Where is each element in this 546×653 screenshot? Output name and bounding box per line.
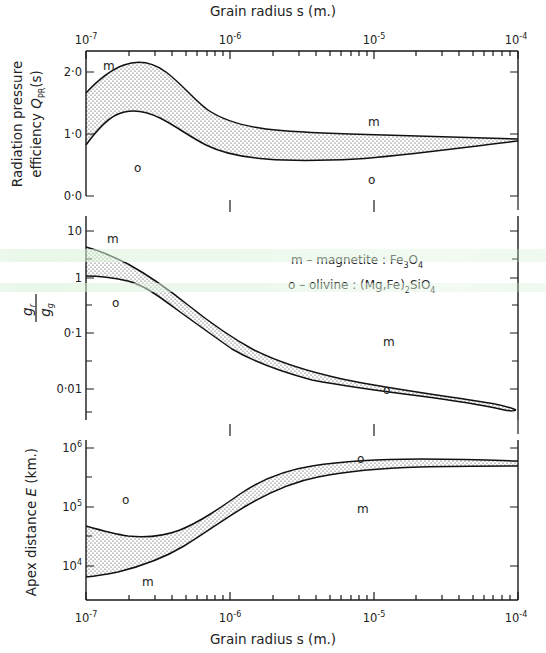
axis-middle-panel (86, 216, 518, 420)
panel-gap-ticks-1 (230, 196, 518, 212)
top-y-tick-label-1: 1·0 (64, 127, 82, 141)
top-axis-title: Grain radius s (m.) (210, 3, 336, 19)
middle-ylabel-denominator: gg (37, 303, 55, 317)
top-y-tick-label-2: 2·0 (64, 65, 82, 79)
bottom-marker-olivine-2: o (357, 452, 364, 466)
top-x-major-ticks (86, 51, 518, 59)
top-marker-magnetite-2: m (368, 115, 380, 129)
top-marker-magnetite: m (103, 59, 115, 73)
top-y-tick-label-0: 0·0 (64, 189, 82, 203)
bottom-x-major-ticks (86, 592, 518, 600)
bottom-ylabel: Apex distance E (km.) (23, 448, 39, 596)
scan-glow-artifact-2 (0, 283, 546, 292)
top-x-tick-3: 10-4 (505, 32, 528, 47)
top-x-tick-labels: 10-7 10-6 10-5 10-4 (75, 32, 528, 47)
bottom-axis-title: Grain radius s (m.) (210, 631, 336, 647)
top-ylabel-line2: efficiency QPR(s) (28, 70, 47, 178)
bottom-x-tick-1: 10-6 (219, 610, 242, 625)
middle-y-tick-label-1: 1 (75, 271, 82, 285)
top-x-minor-ticks (129, 51, 510, 56)
top-y-ticks-right (510, 72, 518, 196)
middle-marker-olivine: o (112, 296, 119, 310)
middle-y-tick-label-10: 10 (67, 224, 82, 238)
top-marker-olivine: o (134, 161, 141, 175)
bottom-x-minor-ticks (129, 595, 510, 600)
middle-marker-olivine-2: o (383, 383, 390, 397)
scan-glow-artifact (0, 249, 546, 262)
bottom-y-tick-label-4: 104 (62, 558, 82, 573)
middle-y-tick-label-0-01: 0·01 (56, 382, 82, 396)
middle-marker-magnetite: m (107, 232, 119, 246)
middle-marker-magnetite-2: m (383, 335, 395, 349)
middle-ylabel-fraction: gr gg (19, 294, 55, 322)
figure-root: Grain radius s (m.) 10-7 10-6 10-5 10-4 (0, 0, 546, 653)
bottom-y-tick-label-5: 105 (62, 499, 82, 514)
bottom-marker-olivine: o (122, 493, 129, 507)
band-top (86, 62, 518, 160)
band-middle (86, 247, 516, 413)
top-ylabel-line1: Radiation pressure (9, 61, 25, 187)
bottom-x-tick-3: 10-4 (505, 610, 528, 625)
figure-svg: Grain radius s (m.) 10-7 10-6 10-5 10-4 (0, 0, 546, 653)
bottom-x-tick-0: 10-7 (75, 610, 98, 625)
top-x-tick-1: 10-6 (219, 32, 242, 47)
panel-radiation-pressure-efficiency: 0·0 1·0 2·0 Radiation pressure efficienc… (9, 51, 518, 203)
middle-y-tick-label-0-1: 0·1 (64, 326, 82, 340)
middle-ylabel-numerator: gr (19, 303, 37, 316)
top-marker-olivine-2: o (368, 173, 375, 187)
top-x-tick-2: 10-5 (363, 32, 386, 47)
bottom-marker-magnetite: m (142, 575, 154, 589)
band-bottom (86, 459, 518, 577)
curve-olivine-middle (86, 276, 516, 411)
panel-radiation-to-gravity-ratio: 10 1 0·1 0·01 gr gg m o m o m – magnetit… (19, 216, 518, 420)
bottom-marker-magnetite-2: m (357, 502, 369, 516)
curve-magnetite-middle (86, 247, 516, 410)
bottom-x-tick-2: 10-5 (363, 610, 386, 625)
panel-apex-distance: 106 105 104 Apex distance E (km.) 10-7 1… (23, 440, 527, 647)
panel-gap-ticks-2 (230, 420, 518, 436)
bottom-y-tick-label-6: 106 (62, 440, 82, 455)
top-x-tick-0: 10-7 (75, 32, 98, 47)
